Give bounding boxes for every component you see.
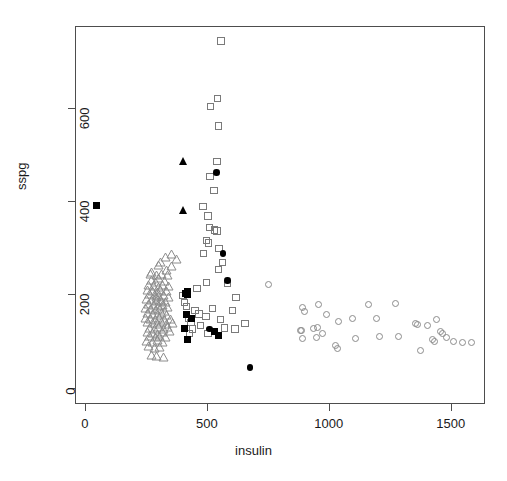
- data-point-triangle-solid: [179, 206, 187, 214]
- data-point-circle-open: [450, 338, 457, 345]
- data-point-square-open: [202, 313, 210, 321]
- data-point-square-open: [204, 212, 212, 220]
- data-point-square-open: [207, 103, 215, 111]
- data-point-circle-open: [395, 333, 402, 340]
- x-axis-title: insulin: [0, 443, 507, 458]
- data-point-circle-open: [365, 301, 372, 308]
- data-point-square-solid: [215, 332, 222, 339]
- data-point-square-open: [210, 187, 218, 195]
- data-point-circle-open: [424, 322, 431, 329]
- data-point-triangle: [158, 352, 169, 362]
- x-axis-tick: [207, 404, 208, 411]
- data-point-square-open: [231, 325, 239, 333]
- y-axis-tick: [68, 201, 75, 202]
- data-point-square-open: [199, 203, 207, 211]
- data-point-square-open: [232, 294, 240, 302]
- data-point-square-open: [217, 37, 225, 45]
- data-point-square-open: [213, 158, 221, 166]
- data-point-circle-open: [392, 300, 399, 307]
- data-point-square-solid: [188, 315, 195, 322]
- data-point-triangle: [161, 265, 172, 275]
- data-point-circle-open: [376, 333, 383, 340]
- data-point-circle-open: [315, 301, 322, 308]
- data-point-circle-open: [301, 308, 308, 315]
- data-points-layer: [76, 27, 484, 403]
- data-point-square-open: [229, 307, 237, 315]
- data-point-circle-open: [314, 324, 321, 331]
- data-point-square-open: [215, 266, 223, 274]
- y-axis-title: sspg: [14, 163, 29, 190]
- data-point-square-open: [197, 322, 205, 330]
- data-point-square-open: [213, 227, 221, 235]
- data-point-circle-open: [265, 281, 272, 288]
- data-point-square-open: [241, 320, 249, 328]
- data-point-circle-solid: [224, 277, 231, 284]
- data-point-triangle: [146, 267, 157, 277]
- data-point-circle-open: [352, 335, 359, 342]
- data-point-circle-open: [431, 338, 438, 345]
- x-axis-tick: [329, 404, 330, 411]
- data-point-square-solid: [93, 202, 100, 209]
- data-point-circle-open: [468, 339, 475, 346]
- data-point-square-open: [217, 316, 225, 324]
- data-point-triangle: [167, 318, 178, 328]
- x-axis-tick: [85, 404, 86, 411]
- data-point-circle-open: [417, 347, 424, 354]
- scatter-plot-figure: sspg insulin 0500100015000200400600: [0, 0, 507, 481]
- data-point-circle-open: [299, 335, 306, 342]
- data-point-circle-solid: [206, 326, 213, 333]
- data-point-circle-open: [298, 327, 305, 334]
- data-point-square-open: [209, 305, 217, 313]
- data-point-square-open: [203, 279, 211, 287]
- data-point-square-open: [193, 285, 201, 293]
- data-point-circle-solid: [247, 364, 254, 371]
- x-axis-tick-label: 1500: [436, 416, 465, 431]
- x-axis-tick-label: 0: [81, 416, 88, 431]
- y-axis-tick: [68, 294, 75, 295]
- data-point-circle-solid: [213, 169, 220, 176]
- data-point-circle-open: [334, 345, 341, 352]
- data-point-circle-open: [459, 339, 466, 346]
- data-point-circle-open: [335, 318, 342, 325]
- plot-area: [75, 26, 485, 404]
- data-point-square-solid: [181, 325, 188, 332]
- x-axis-tick-label: 1000: [314, 416, 343, 431]
- data-point-square-solid: [184, 288, 191, 295]
- data-point-square-open: [205, 239, 213, 247]
- x-axis-tick-label: 500: [196, 416, 218, 431]
- data-point-triangle-solid: [179, 157, 187, 165]
- data-point-circle-open: [323, 311, 330, 318]
- data-point-circle-open: [414, 321, 421, 328]
- data-point-square-open: [214, 95, 222, 103]
- data-point-circle-open: [319, 330, 326, 337]
- y-axis-tick: [68, 108, 75, 109]
- x-axis-tick: [451, 404, 452, 411]
- data-point-circle-open: [433, 316, 440, 323]
- data-point-square-open: [191, 307, 199, 315]
- data-point-square-open: [181, 299, 189, 307]
- data-point-square-solid: [184, 336, 191, 343]
- data-point-circle-solid: [220, 250, 227, 257]
- data-point-triangle: [156, 296, 167, 306]
- data-point-square-open: [215, 122, 223, 130]
- data-point-square-open: [200, 250, 208, 258]
- data-point-circle-open: [349, 315, 356, 322]
- data-point-circle-open: [373, 315, 380, 322]
